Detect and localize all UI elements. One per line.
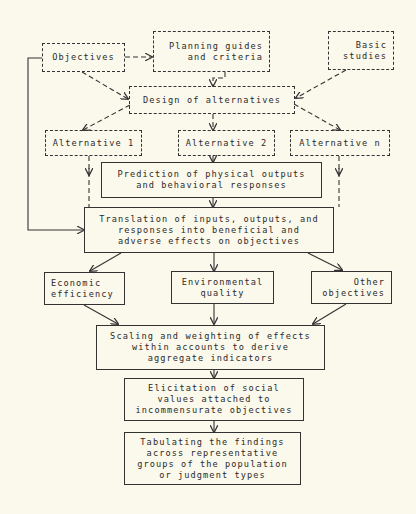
node-scaling-line: Scaling and weighting of effects bbox=[110, 331, 311, 342]
node-economic-line: efficiency bbox=[51, 289, 114, 300]
edge-economic-scaling bbox=[84, 305, 118, 324]
edge-translation-economic bbox=[90, 253, 121, 271]
node-prediction: Prediction of physical outputs and behav… bbox=[101, 162, 322, 198]
node-objectives: Objectives bbox=[42, 43, 125, 72]
edge-other-scaling bbox=[313, 304, 346, 324]
node-scaling-weighting: Scaling and weighting of effects within … bbox=[96, 325, 325, 370]
node-economic-efficiency: Economic efficiency bbox=[44, 272, 125, 305]
node-tabulating-line: across representative bbox=[147, 448, 279, 459]
node-objectives-line: Objectives bbox=[52, 52, 115, 63]
node-translation-line: responses into beneficial and bbox=[118, 225, 300, 236]
node-elicitation-line: values attached to bbox=[158, 394, 271, 405]
node-alternative-1: Alternative 1 bbox=[45, 130, 142, 156]
edge-translation-other bbox=[308, 253, 342, 270]
node-other-line: Other bbox=[354, 277, 385, 288]
node-planning-line: and criteria bbox=[188, 52, 263, 63]
node-elicitation-line: incommensurate objectives bbox=[136, 405, 293, 416]
node-tabulating: Tabulating the findings across represent… bbox=[124, 432, 301, 485]
node-translation-line: adverse effects on objectives bbox=[118, 236, 300, 247]
node-other-objectives: Other objectives bbox=[311, 271, 392, 304]
node-alt2-line: Alternative 2 bbox=[186, 138, 268, 149]
node-prediction-line: and behavioral responses bbox=[136, 180, 287, 191]
node-planning-guides: Planning guides and criteria bbox=[153, 31, 270, 72]
node-planning-line: Planning guides bbox=[169, 41, 263, 52]
edge-basic-design bbox=[296, 70, 346, 98]
node-environmental-line: quality bbox=[201, 288, 245, 299]
node-prediction-line: Prediction of physical outputs bbox=[117, 169, 305, 180]
node-scaling-line: within accounts to derive bbox=[132, 342, 289, 353]
node-altn-line: Alternative n bbox=[299, 138, 381, 149]
edge-design-altn bbox=[294, 104, 340, 130]
node-scaling-line: aggregate indicators bbox=[148, 353, 273, 364]
edge-planning-design bbox=[213, 72, 225, 86]
node-basic-studies: Basic studies bbox=[328, 31, 394, 70]
node-tabulating-line: Tabulating the findings bbox=[140, 437, 284, 448]
node-alt1-line: Alternative 1 bbox=[53, 138, 135, 149]
node-alternative-n: Alternative n bbox=[290, 130, 390, 156]
node-tabulating-line: or judgment types bbox=[159, 470, 266, 481]
node-environmental-line: Environmental bbox=[182, 277, 264, 288]
node-environmental-quality: Environmental quality bbox=[171, 271, 274, 304]
node-economic-line: Economic bbox=[51, 278, 101, 289]
node-basic-line: studies bbox=[343, 51, 387, 62]
node-design-of-alternatives: Design of alternatives bbox=[129, 86, 295, 114]
node-translation: Translation of inputs, outputs, and resp… bbox=[84, 207, 334, 253]
node-elicitation-line: Elicitation of social bbox=[148, 383, 280, 394]
node-alternative-2: Alternative 2 bbox=[178, 130, 275, 156]
node-translation-line: Translation of inputs, outputs, and bbox=[99, 214, 319, 225]
edge-design-alt1 bbox=[83, 105, 130, 130]
node-other-line: objectives bbox=[322, 288, 385, 299]
node-tabulating-line: groups of the population bbox=[137, 459, 288, 470]
edge-objectives-design bbox=[82, 72, 128, 99]
node-elicitation: Elicitation of social values attached to… bbox=[124, 378, 304, 421]
node-basic-line: Basic bbox=[356, 40, 387, 51]
node-design-line: Design of alternatives bbox=[143, 95, 281, 106]
